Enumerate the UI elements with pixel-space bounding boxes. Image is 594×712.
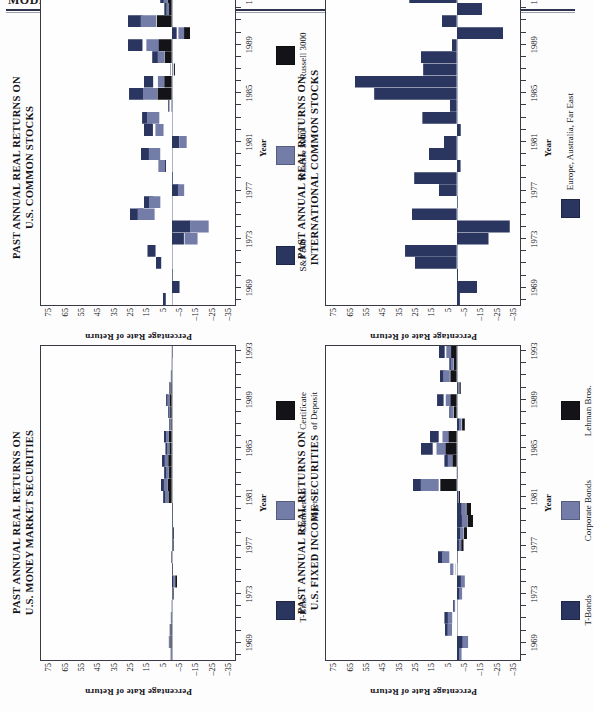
bar-group xyxy=(326,636,520,648)
x-tick xyxy=(521,238,526,239)
x-axis-ticks xyxy=(236,345,244,661)
figure-us-common-stocks: PAST ANNUAL REAL RETURNS ONU.S. COMMON S… xyxy=(10,0,300,345)
x-tick xyxy=(521,214,526,215)
bar-group xyxy=(41,172,235,184)
x-tick xyxy=(521,299,526,300)
x-tick xyxy=(236,411,241,412)
x-tick xyxy=(236,104,241,105)
x-tick-label: 1989 xyxy=(529,36,539,53)
y-tick-label: 5 xyxy=(158,663,168,667)
bar xyxy=(172,281,196,293)
x-tick xyxy=(236,459,241,460)
bar xyxy=(452,600,457,612)
y-tick-label: –5 xyxy=(459,663,469,672)
x-tick xyxy=(236,238,241,239)
y-tick-label: 55 xyxy=(76,663,86,672)
x-axis-label: Year xyxy=(258,0,268,306)
x-tick xyxy=(521,496,526,497)
bar xyxy=(450,100,457,112)
bar-group xyxy=(41,503,235,515)
bar-group xyxy=(41,467,235,479)
y-tick-label: 75 xyxy=(43,308,53,317)
x-tick xyxy=(521,411,526,412)
y-tick-label: 35 xyxy=(109,663,119,672)
bar-group xyxy=(326,208,520,220)
bar-group xyxy=(41,612,235,624)
chart-title: PAST ANNUAL REAL RETURNS ONU.S. FIXED IN… xyxy=(295,345,321,700)
y-axis-ticks: 756555453525155–5–15–25–35 xyxy=(40,661,236,685)
bar-group xyxy=(41,196,235,208)
x-tick xyxy=(236,202,241,203)
chart-title-line1: PAST ANNUAL REAL RETURNS ON xyxy=(10,0,23,345)
bar-group xyxy=(326,370,520,382)
bar xyxy=(457,160,461,172)
x-tick xyxy=(236,605,241,606)
legend-swatch-icon xyxy=(561,199,580,218)
x-tick-label: 1973 xyxy=(529,231,539,248)
bar xyxy=(415,257,457,269)
bar xyxy=(456,467,457,479)
x-tick xyxy=(236,19,241,20)
bar-group xyxy=(326,612,520,624)
x-tick xyxy=(236,508,241,509)
bar-group xyxy=(326,0,520,3)
bar-group xyxy=(326,418,520,430)
bar xyxy=(457,551,458,563)
bar xyxy=(170,63,172,75)
bar xyxy=(355,76,457,88)
y-axis-ticks: 756555453525155–5–15–25–35 xyxy=(325,306,521,330)
bar-group xyxy=(326,281,520,293)
x-tick-label: 1981 xyxy=(244,488,254,505)
x-tick xyxy=(521,399,526,400)
bar xyxy=(412,208,457,220)
x-tick xyxy=(521,275,526,276)
y-tick-label: –25 xyxy=(207,308,217,321)
x-tick xyxy=(236,545,241,546)
x-tick xyxy=(236,399,241,400)
plot-frame xyxy=(325,0,521,306)
bar-group xyxy=(41,515,235,527)
x-tick-label: 1989 xyxy=(529,391,539,408)
x-tick xyxy=(521,617,526,618)
chart-title: PAST ANNUAL REAL RETURNS ONINTERNATIONAL… xyxy=(295,0,321,345)
x-tick-label: 1981 xyxy=(529,133,539,150)
bar-group xyxy=(41,527,235,539)
bar-group xyxy=(41,588,235,600)
y-tick-label: 75 xyxy=(328,663,338,672)
x-tick-label: 1985 xyxy=(244,85,254,102)
plot-frame xyxy=(40,0,236,306)
x-tick xyxy=(521,630,526,631)
bar xyxy=(172,563,174,575)
plot-frame xyxy=(325,345,521,661)
bar-group xyxy=(41,27,235,39)
x-tick xyxy=(236,56,241,57)
x-tick xyxy=(236,141,241,142)
x-tick xyxy=(236,496,241,497)
bar-group xyxy=(326,491,520,503)
bar-group xyxy=(41,491,235,503)
bar-group xyxy=(41,600,235,612)
y-tick-label: –25 xyxy=(492,663,502,676)
y-tick-label: 65 xyxy=(60,663,70,672)
bar-group xyxy=(41,208,235,220)
x-tick xyxy=(236,190,241,191)
figure-us-money-market: PAST ANNUAL REAL RETURNS ONU.S. MONEY MA… xyxy=(10,345,300,700)
x-tick xyxy=(236,569,241,570)
x-tick xyxy=(521,117,526,118)
chart-title-line2: INTERNATIONAL COMMON STOCKS xyxy=(308,0,321,345)
bar xyxy=(172,527,175,539)
x-tick xyxy=(236,226,241,227)
plot-area: Percentage Rate of Return756555453525155… xyxy=(40,345,236,698)
bar xyxy=(444,136,457,148)
figure-us-fixed-income: PAST ANNUAL REAL RETURNS ONU.S. FIXED IN… xyxy=(295,345,585,700)
bar-group xyxy=(41,431,235,443)
bar-group xyxy=(41,245,235,257)
chart-title: PAST ANNUAL REAL RETURNS ONU.S. MONEY MA… xyxy=(10,345,36,700)
bar-groups xyxy=(326,346,520,660)
bar xyxy=(405,245,457,257)
x-tick-label: 1985 xyxy=(244,440,254,457)
bar-group xyxy=(41,0,235,3)
bar-group xyxy=(326,346,520,358)
x-tick xyxy=(236,581,241,582)
bar xyxy=(457,382,462,394)
